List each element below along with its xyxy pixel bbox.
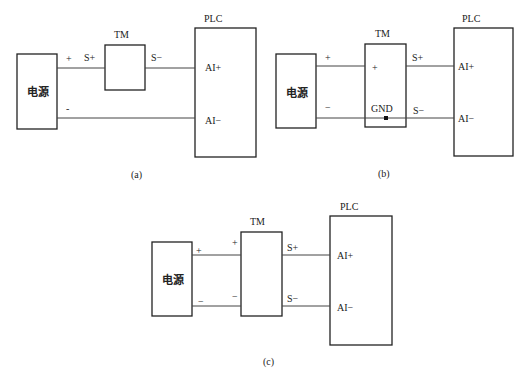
s-minus-label: S− (287, 293, 299, 304)
diagram-b: 电源 TM PLC + − + GND S+ S− AI+ AI− (b) (276, 13, 513, 180)
plc-box (330, 216, 392, 345)
power-minus-label: − (198, 296, 204, 307)
power-supply-label: 电源 (286, 86, 308, 100)
ai-minus-label: AI− (337, 302, 354, 313)
tm-plus-label: + (232, 237, 238, 248)
ai-plus-label: AI+ (337, 250, 354, 261)
s-minus-label: S− (413, 105, 425, 116)
tm-gnd-label: GND (371, 103, 393, 114)
tm-box (241, 232, 282, 316)
diagram-c: 电源 TM PLC + − + − S+ S− AI+ AI− (c) (152, 201, 392, 368)
s-plus-label: S+ (287, 242, 299, 253)
plc-box (454, 28, 513, 156)
power-minus-label: - (66, 103, 69, 114)
ai-minus-label: AI− (458, 113, 475, 124)
power-minus-label: − (325, 102, 331, 113)
ai-plus-label: AI+ (458, 61, 475, 72)
power-plus-label: + (196, 245, 202, 256)
ai-plus-label: AI+ (205, 62, 222, 73)
tm-box (365, 44, 406, 127)
power-plus-label: + (66, 53, 72, 64)
tm-label: TM (375, 28, 390, 39)
caption-b: (b) (378, 168, 390, 180)
plc-box (195, 28, 256, 157)
tm-minus-label: − (232, 291, 238, 302)
tm-label: TM (250, 216, 265, 227)
power-plus-label: + (325, 52, 331, 63)
power-supply-label: 电源 (162, 273, 184, 287)
tm-plus-label: + (372, 62, 378, 73)
caption-c: (c) (263, 356, 274, 368)
wiring-diagrams: 电源 TM PLC + - S+ S− AI+ AI− (a) 电源 TM PL… (0, 0, 528, 378)
plc-label: PLC (340, 201, 359, 212)
ai-minus-label: AI− (205, 115, 222, 126)
gnd-junction-dot (384, 116, 388, 120)
plc-label: PLC (462, 13, 481, 24)
caption-a: (a) (131, 169, 142, 181)
s-minus-label: S− (151, 52, 163, 63)
s-plus-label: S+ (84, 52, 96, 63)
tm-label: TM (114, 29, 129, 40)
power-supply-label: 电源 (27, 85, 49, 99)
s-plus-label: S+ (412, 52, 424, 63)
diagram-a: 电源 TM PLC + - S+ S− AI+ AI− (a) (17, 13, 256, 181)
tm-box (105, 45, 145, 90)
plc-label: PLC (204, 13, 223, 24)
